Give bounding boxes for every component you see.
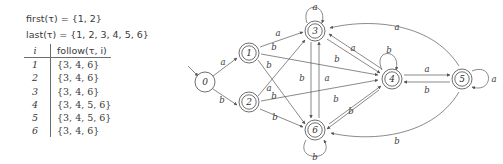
start-arrow: [188, 66, 198, 76]
state-label-1: 1: [246, 48, 252, 58]
table-row: 1 {3, 4, 6}: [24, 58, 111, 72]
column-header-follow: follow(τ, i): [51, 44, 112, 58]
state-node-5[interactable]: 5: [452, 69, 472, 89]
edge-label-loop-3: a: [312, 2, 317, 12]
edge-label-0-1: a: [220, 57, 225, 67]
automaton-diagram: 0 1 2 3: [150, 0, 503, 164]
cell-follow: {3, 4, 6}: [51, 71, 112, 84]
edge-0-2: [213, 89, 237, 105]
edge-label-5-4: b: [424, 85, 429, 95]
state-label-4: 4: [388, 74, 395, 84]
edge-label-3-4: b: [334, 54, 339, 64]
cell-follow: {3, 4, 5, 6}: [51, 98, 112, 111]
edge-label-loop-6: b: [312, 152, 317, 162]
state-label-5: 5: [459, 74, 465, 84]
state-node-0[interactable]: 0: [195, 72, 215, 92]
edge-label-5-3: a: [394, 22, 399, 32]
edge-1-6: [258, 60, 305, 124]
cell-index: 2: [24, 71, 51, 84]
edge-label-loop-5: a: [491, 74, 496, 84]
table-row: 6 {3, 4, 6}: [24, 124, 111, 137]
edge-label-4-5: a: [424, 64, 429, 74]
first-set-formula: first(τ) = {1, 2}: [26, 13, 102, 24]
column-header-index: i: [24, 44, 51, 58]
edge-2-4: [261, 80, 378, 101]
edge-label-1-3: a: [275, 28, 280, 38]
edge-1-3: [260, 32, 303, 47]
state-node-3[interactable]: 3: [305, 21, 325, 41]
state-label-3: 3: [312, 26, 318, 36]
edge-label-1-6: b: [266, 60, 271, 70]
edge-label-6-3: a: [324, 73, 329, 83]
cell-index: 3: [24, 85, 51, 98]
state-label-0: 0: [202, 77, 208, 87]
self-loop-4: [380, 54, 397, 71]
state-node-6[interactable]: 6: [305, 120, 325, 140]
cell-index: 5: [24, 111, 51, 124]
table-header-row: i follow(τ, i): [24, 44, 111, 58]
cell-follow: {3, 4, 6}: [51, 58, 112, 72]
edge-label-3-6: b: [299, 73, 304, 83]
edge-label-1-4: b: [271, 42, 276, 52]
edge-label-4-6: b: [333, 94, 338, 104]
edge-label-loop-4: b: [386, 45, 391, 55]
state-label-6: 6: [312, 125, 318, 135]
edge-label-5-6: b: [394, 136, 399, 146]
edge-label-6-4: b: [348, 106, 353, 116]
figure-root: first(τ) = {1, 2} last(τ) = {1, 2, 3, 4,…: [0, 0, 503, 164]
state-node-4[interactable]: 4: [382, 69, 402, 89]
edge-label-4-3: a: [350, 43, 355, 53]
follow-set-panel: first(τ) = {1, 2} last(τ) = {1, 2, 3, 4,…: [0, 0, 150, 164]
cell-index: 1: [24, 58, 51, 72]
table-row: 5 {3, 4, 5, 6}: [24, 111, 111, 124]
cell-index: 6: [24, 124, 51, 137]
self-loop-5: [472, 69, 489, 88]
cell-index: 4: [24, 98, 51, 111]
edge-2-3: [258, 40, 305, 96]
cell-follow: {3, 4, 6}: [51, 124, 112, 137]
edge-label-2-6: b: [272, 112, 277, 122]
cell-follow: {3, 4, 6}: [51, 85, 112, 98]
state-node-2[interactable]: 2: [239, 92, 259, 112]
state-label-2: 2: [245, 97, 252, 107]
edge-6-4: [329, 86, 381, 124]
edge-label-2-4: b: [271, 91, 276, 101]
table-row: 2 {3, 4, 6}: [24, 71, 111, 84]
cell-follow: {3, 4, 5, 6}: [51, 111, 112, 124]
table-row: 4 {3, 4, 5, 6}: [24, 98, 111, 111]
follow-table: i follow(τ, i) 1 {3, 4, 6} 2 {3, 4, 6} 3…: [24, 44, 111, 137]
last-set-formula: last(τ) = {1, 2, 3, 4, 5, 6}: [26, 29, 149, 40]
state-node-1[interactable]: 1: [239, 43, 259, 63]
edge-label-0-2: b: [219, 95, 224, 105]
edge-2-6: [260, 109, 303, 127]
table-row: 3 {3, 4, 6}: [24, 85, 111, 98]
automaton-svg: 0 1 2 3: [150, 0, 503, 164]
